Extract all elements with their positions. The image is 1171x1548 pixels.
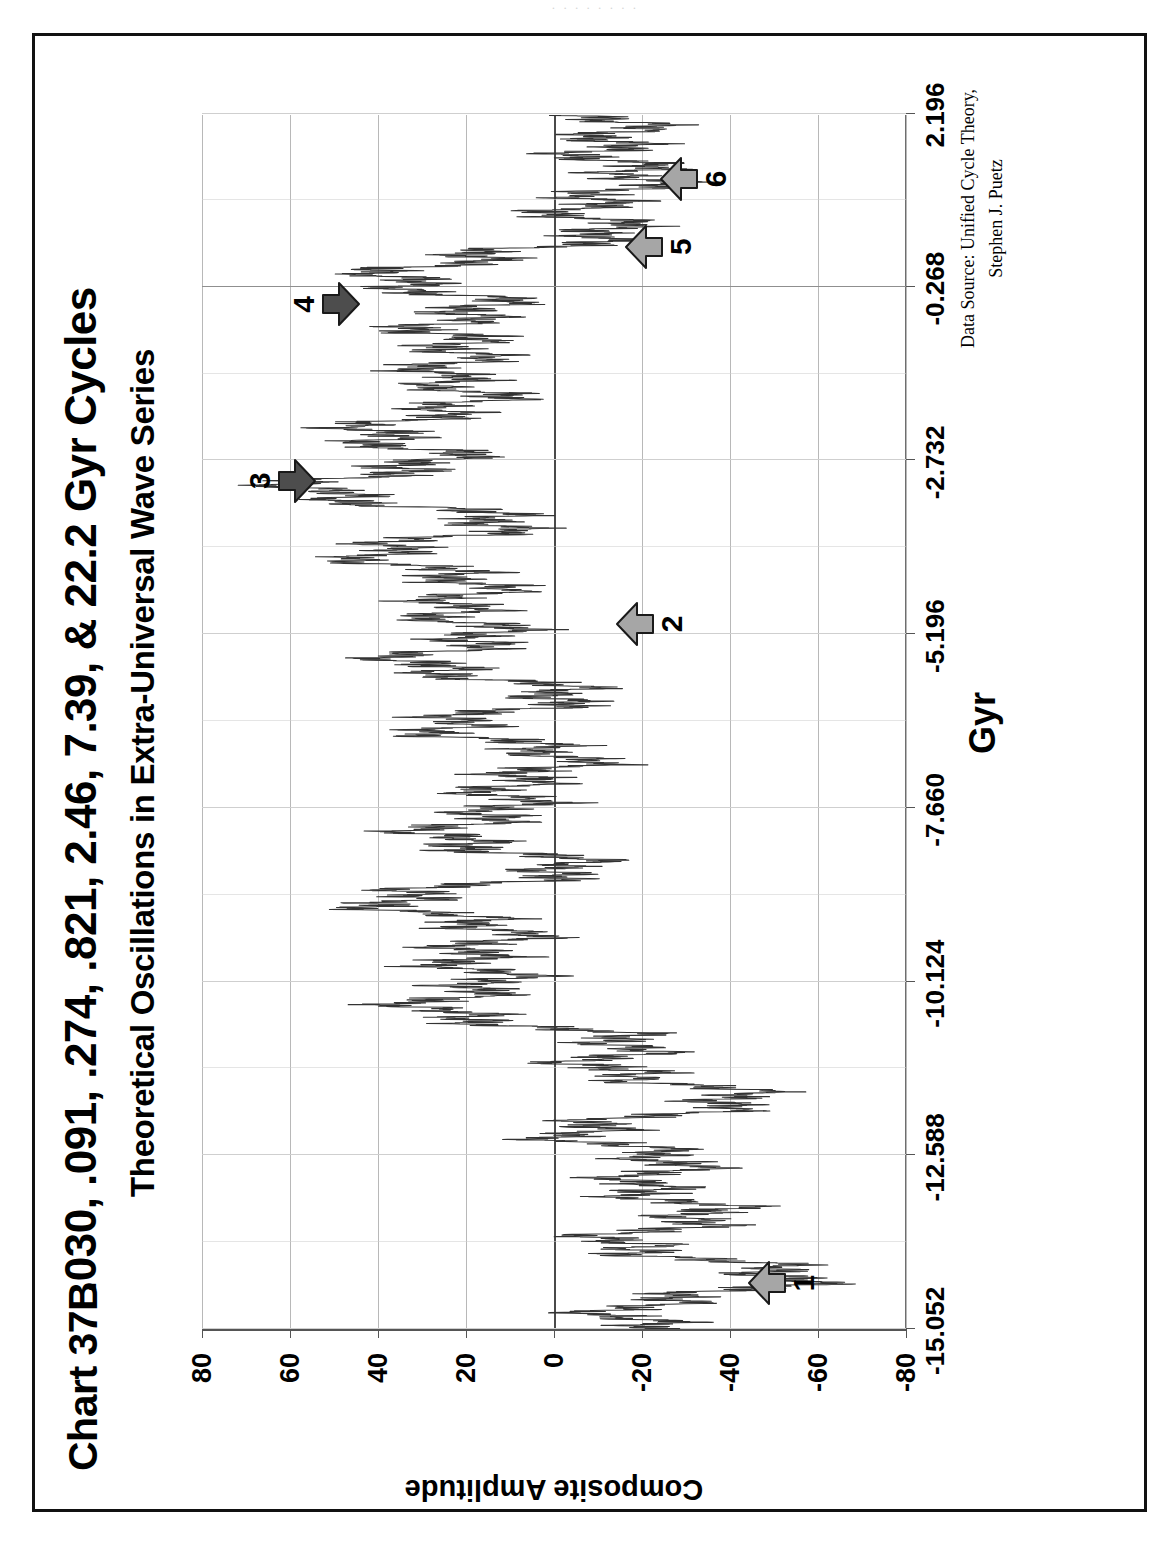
y-tick-label: 40: [362, 1353, 393, 1383]
y-tick-40: [378, 1329, 379, 1338]
x-tick-7: [906, 113, 915, 114]
x-tick-0: [906, 1328, 915, 1329]
chart-number: Chart 37B: [60, 1281, 107, 1470]
gridline-x-7: [202, 113, 906, 114]
arrow-icon: [321, 281, 361, 327]
annotation-arrow-6: 6: [658, 156, 730, 202]
arrow-icon: [277, 457, 317, 503]
x-tick-label: -0.268: [920, 251, 951, 325]
plot-area: 123456: [202, 115, 906, 1331]
x-tick-2: [906, 980, 915, 981]
y-tick-label: -40: [714, 1353, 745, 1392]
y-tick-80: [202, 1329, 203, 1338]
x-tick-label: -10.124: [920, 939, 951, 1027]
annotation-arrow-4: 4: [289, 281, 361, 327]
rotated-chart-canvas: Chart 37B .030, .091, .274, .821, 2.46, …: [50, 53, 1130, 1493]
annotation-stack: 6: [658, 156, 730, 202]
annotation-label: 5: [665, 238, 695, 255]
annotation-stack: 1: [746, 1260, 818, 1306]
x-tick-6: [906, 285, 915, 286]
x-tick-3: [906, 806, 915, 807]
y-tick--40: [730, 1329, 731, 1338]
annotation-label: 4: [289, 296, 319, 313]
x-axis-title: Gyr: [962, 115, 1004, 1331]
scan-artifact-text: · · · · · · · ·: [430, 0, 760, 18]
chart-subtitle: Theoretical Oscillations in Extra-Univer…: [124, 53, 162, 1493]
y-tick-label: -80: [890, 1353, 921, 1392]
y-tick-0: [554, 1329, 555, 1338]
page-frame: Chart 37B .030, .091, .274, .821, 2.46, …: [32, 33, 1147, 1512]
annotation-stack: 2: [614, 600, 686, 646]
y-tick-label: 20: [450, 1353, 481, 1383]
annotation-arrow-5: 5: [623, 223, 695, 269]
annotation-stack: 4: [289, 281, 361, 327]
x-tick-label: 2.196: [920, 82, 951, 147]
arrow-icon: [614, 600, 654, 646]
y-tick-label: 80: [186, 1353, 217, 1383]
annotation-stack: 5: [623, 223, 695, 269]
arrow-icon: [658, 156, 698, 202]
annotation-arrow-1: 1: [746, 1260, 818, 1306]
x-tick-label: -7.660: [920, 772, 951, 846]
y-tick-label: -20: [626, 1353, 657, 1392]
annotation-label: 6: [700, 170, 730, 187]
y-tick--20: [642, 1329, 643, 1338]
y-tick-20: [466, 1329, 467, 1338]
x-tick-1: [906, 1154, 915, 1155]
y-tick--80: [906, 1329, 907, 1338]
y-tick--60: [818, 1329, 819, 1338]
annotation-arrow-3: 3: [245, 457, 317, 503]
x-tick-label: -15.052: [920, 1286, 951, 1374]
annotation-arrow-2: 2: [614, 600, 686, 646]
annotation-stack: 3: [245, 457, 317, 503]
x-tick-label: -12.588: [920, 1113, 951, 1201]
chart-header: Chart 37B .030, .091, .274, .821, 2.46, …: [56, 53, 118, 1493]
annotation-label: 2: [656, 615, 686, 632]
x-tick-4: [906, 633, 915, 634]
page-title: .030, .091, .274, .821, 2.46, 7.39, & 22…: [56, 287, 106, 1293]
y-axis-title: Composite Amplitude: [404, 1472, 703, 1505]
y-tick-label: 0: [538, 1353, 569, 1368]
x-tick-5: [906, 459, 915, 460]
y-tick-label: 60: [274, 1353, 305, 1383]
annotation-label: 1: [788, 1274, 818, 1291]
plot-wrapper: Composite Amplitude 123456 806040200-20-…: [202, 115, 906, 1331]
x-tick-label: -2.732: [920, 425, 951, 499]
arrow-icon: [746, 1260, 786, 1306]
y-tick-label: -60: [802, 1353, 833, 1392]
x-tick-label: -5.196: [920, 599, 951, 673]
y-tick-60: [290, 1329, 291, 1338]
annotation-label: 3: [245, 472, 275, 489]
arrow-icon: [623, 223, 663, 269]
